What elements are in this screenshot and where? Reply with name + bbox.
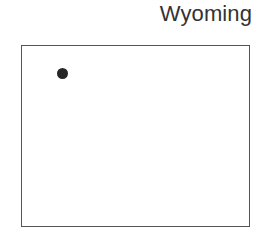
markers-layer [0, 0, 265, 250]
map-canvas: Wyoming [0, 0, 265, 250]
map-point-marker [57, 68, 68, 79]
